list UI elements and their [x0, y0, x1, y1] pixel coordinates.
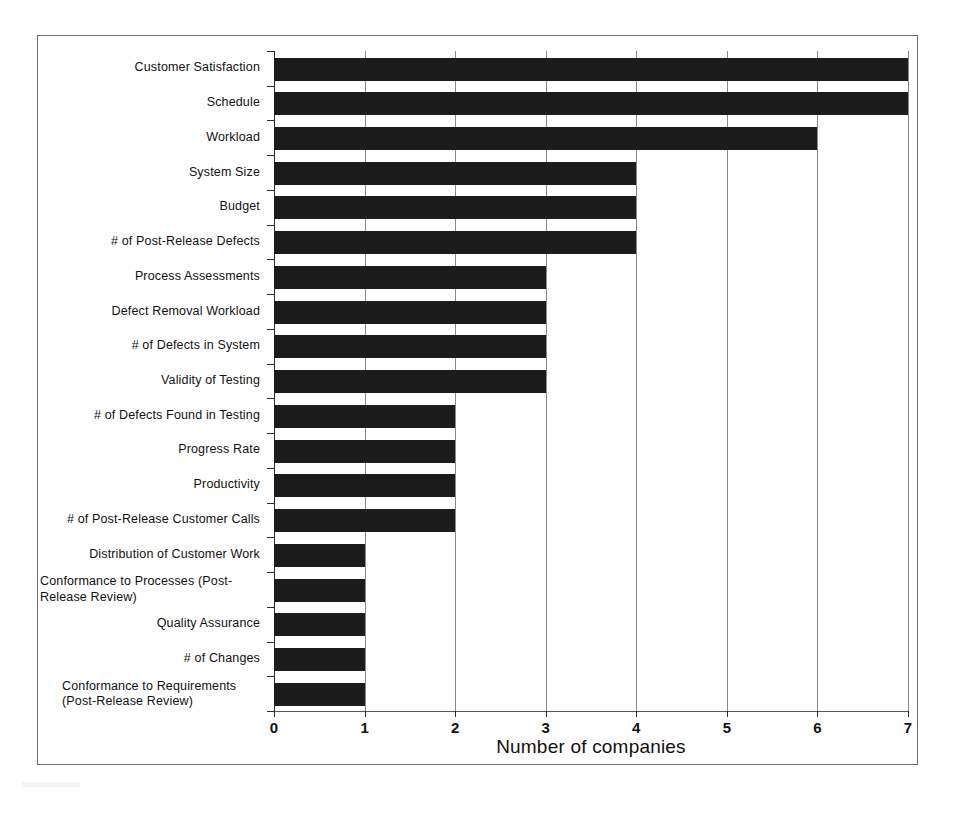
bar-row	[274, 225, 908, 261]
category-label: # of Post-Release Customer Calls	[28, 512, 260, 528]
category-label: # of Defects Found in Testing	[28, 408, 260, 424]
bars-group	[274, 51, 908, 711]
category-label: # of Changes	[28, 651, 260, 667]
bar	[274, 92, 908, 115]
x-axis-tick-label-2: 2	[451, 719, 459, 736]
category-label: Schedule	[28, 95, 260, 111]
x-axis-title: Number of companies	[274, 736, 908, 758]
y-axis-tick	[267, 537, 274, 538]
bar-row	[274, 120, 908, 156]
y-axis-tick	[267, 607, 274, 608]
x-axis-tick-label-5: 5	[723, 719, 731, 736]
y-axis-tick	[267, 503, 274, 504]
category-label: Conformance to Requirements(Post-Release…	[62, 678, 276, 709]
category-label: System Size	[28, 165, 260, 181]
bar-row	[274, 294, 908, 330]
x-axis-tick-label-3: 3	[542, 719, 550, 736]
category-label: # of Defects in System	[28, 339, 260, 355]
bar-row	[274, 364, 908, 400]
bar	[274, 231, 636, 254]
bar-row	[274, 607, 908, 643]
y-axis-tick	[267, 329, 274, 330]
y-axis-tick	[267, 155, 274, 156]
bar-row	[274, 51, 908, 87]
x-axis-tick-label-4: 4	[632, 719, 640, 736]
bar	[274, 648, 365, 671]
category-label: Customer Satisfaction	[28, 61, 260, 77]
y-axis-tick	[267, 572, 274, 573]
category-label: Budget	[28, 200, 260, 216]
bar	[274, 509, 455, 532]
x-axis-tick-label-6: 6	[813, 719, 821, 736]
bar	[274, 301, 546, 324]
y-axis-tick	[267, 433, 274, 434]
x-axis-tick-mark-1	[365, 711, 366, 717]
y-axis-tick	[267, 468, 274, 469]
bar	[274, 440, 455, 463]
bar-row	[274, 86, 908, 122]
bar-row	[274, 537, 908, 573]
category-label: Distribution of Customer Work	[28, 547, 260, 563]
y-axis-tick	[267, 225, 274, 226]
bar	[274, 370, 546, 393]
y-axis-tick	[267, 642, 274, 643]
y-axis-tick	[267, 711, 274, 712]
y-axis-tick	[267, 364, 274, 365]
y-axis-tick	[267, 398, 274, 399]
x-axis-tick-mark-2	[455, 711, 456, 717]
x-axis-tick-mark-4	[636, 711, 637, 717]
bar-row	[274, 676, 908, 712]
bar	[274, 266, 546, 289]
bar-row	[274, 329, 908, 365]
bar-row	[274, 433, 908, 469]
y-axis-tick	[267, 259, 274, 260]
x-axis-tick-label-1: 1	[360, 719, 368, 736]
bar	[274, 58, 908, 81]
category-label: Process Assessments	[28, 269, 260, 285]
bar-row	[274, 468, 908, 504]
category-label: Workload	[28, 130, 260, 146]
x-axis-tick-label-0: 0	[270, 719, 278, 736]
y-axis-tick	[267, 190, 274, 191]
bar	[274, 683, 365, 706]
category-label: Validity of Testing	[28, 373, 260, 389]
category-label: Quality Assurance	[28, 616, 260, 632]
bar	[274, 162, 636, 185]
bar-row	[274, 155, 908, 191]
x-axis-tick-label-7: 7	[904, 719, 912, 736]
bar-row	[274, 190, 908, 226]
chart-figure-frame: Customer SatisfactionScheduleWorkloadSys…	[37, 35, 918, 765]
gridline-7	[908, 51, 909, 711]
category-label: Productivity	[28, 477, 260, 493]
y-axis-tick	[267, 86, 274, 87]
bar	[274, 474, 455, 497]
bar	[274, 335, 546, 358]
category-label: Progress Rate	[28, 443, 260, 459]
category-label: # of Post-Release Defects	[28, 234, 260, 250]
x-axis-tick-mark-3	[546, 711, 547, 717]
x-axis-tick-mark-6	[817, 711, 818, 717]
y-axis-tick	[267, 294, 274, 295]
x-axis-tick-mark-5	[727, 711, 728, 717]
bar-row	[274, 398, 908, 434]
bar-row	[274, 572, 908, 608]
bar-row	[274, 503, 908, 539]
x-axis-line	[274, 711, 908, 712]
category-label: Conformance to Processes (Post-Release R…	[40, 574, 276, 605]
x-axis-tick-mark-7	[908, 711, 909, 717]
category-labels-group: Customer SatisfactionScheduleWorkloadSys…	[38, 51, 268, 711]
bar-row	[274, 642, 908, 678]
bar	[274, 405, 455, 428]
y-axis-tick	[267, 676, 274, 677]
y-axis-tick	[267, 120, 274, 121]
bar	[274, 544, 365, 567]
category-label: Defect Removal Workload	[28, 304, 260, 320]
x-axis-tick-mark-0	[274, 711, 275, 717]
bar-row	[274, 259, 908, 295]
bar	[274, 127, 817, 150]
bar	[274, 579, 365, 602]
bar	[274, 613, 365, 636]
bar	[274, 196, 636, 219]
y-axis-tick	[267, 51, 274, 52]
plot-area: 01234567	[274, 51, 908, 711]
